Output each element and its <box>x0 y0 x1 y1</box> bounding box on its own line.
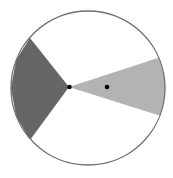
circle-sector-diagram <box>0 0 173 178</box>
interior-point <box>105 85 110 90</box>
light-sector <box>69 56 166 117</box>
vertex-point <box>67 85 72 90</box>
